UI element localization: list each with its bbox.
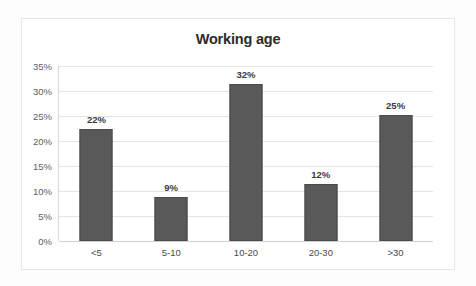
bar-value-label: 22% bbox=[87, 114, 106, 125]
y-axis-tick-label: 20% bbox=[33, 136, 52, 147]
gridline: 0% bbox=[59, 241, 433, 242]
y-axis-tick-label: 35% bbox=[33, 61, 52, 72]
y-axis-tick-label: 15% bbox=[33, 161, 52, 172]
y-axis-tick-label: 0% bbox=[38, 236, 52, 247]
bar-value-label: 12% bbox=[311, 169, 330, 180]
x-axis-tick-label: >30 bbox=[388, 247, 404, 258]
bars-layer: 22%9%32%12%25% bbox=[59, 66, 433, 241]
y-axis-tick-label: 25% bbox=[33, 111, 52, 122]
bar-group: 9% bbox=[134, 66, 209, 241]
bar-group: 12% bbox=[283, 66, 358, 241]
x-axis-labels: <55-1010-2020-30>30 bbox=[59, 247, 433, 265]
x-axis-tick-label: <5 bbox=[91, 247, 102, 258]
x-axis-tick-label: 10-20 bbox=[234, 247, 258, 258]
x-axis-tick-label: 20-30 bbox=[309, 247, 333, 258]
y-axis-tick-label: 5% bbox=[38, 211, 52, 222]
plot-area: 0%5%10%15%20%25%30%35% 22%9%32%12%25% bbox=[59, 66, 433, 241]
x-axis-tick-label: 5-10 bbox=[162, 247, 181, 258]
bar[interactable] bbox=[80, 129, 113, 242]
chart-title: Working age bbox=[22, 31, 454, 47]
bar-group: 32% bbox=[209, 66, 284, 241]
bar[interactable] bbox=[304, 184, 337, 242]
chart-frame: Working age 0%5%10%15%20%25%30%35% 22%9%… bbox=[21, 18, 455, 270]
bar-value-label: 25% bbox=[386, 100, 405, 111]
bar[interactable] bbox=[155, 197, 188, 241]
bar-group: 22% bbox=[59, 66, 134, 241]
y-axis-tick-label: 30% bbox=[33, 86, 52, 97]
bar-value-label: 9% bbox=[164, 182, 178, 193]
bar-value-label: 32% bbox=[236, 69, 255, 80]
bar-group: 25% bbox=[358, 66, 433, 241]
bar[interactable] bbox=[229, 84, 262, 242]
bar[interactable] bbox=[379, 115, 412, 241]
y-axis-tick-label: 10% bbox=[33, 186, 52, 197]
